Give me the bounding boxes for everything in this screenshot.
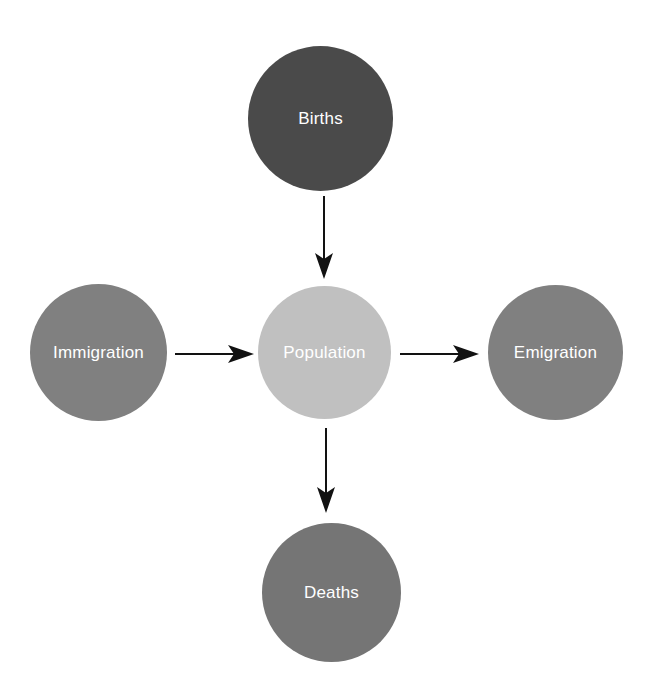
node-immigration[interactable]: Immigration <box>30 284 167 421</box>
arrow-immigration-to-population <box>175 345 254 363</box>
node-population[interactable]: Population <box>258 286 391 419</box>
population-flow-diagram: Births Immigration Population Emigration… <box>0 0 653 695</box>
node-immigration-label: Immigration <box>53 344 144 361</box>
node-population-label: Population <box>283 344 365 361</box>
node-deaths-label: Deaths <box>304 584 359 601</box>
node-emigration[interactable]: Emigration <box>488 285 623 420</box>
arrow-population-to-deaths <box>317 428 335 513</box>
arrow-population-to-emigration <box>400 345 479 363</box>
arrow-births-to-population <box>315 196 333 279</box>
node-deaths[interactable]: Deaths <box>262 523 401 662</box>
node-emigration-label: Emigration <box>514 344 597 361</box>
node-births-label: Births <box>298 110 343 127</box>
node-births[interactable]: Births <box>248 46 393 191</box>
